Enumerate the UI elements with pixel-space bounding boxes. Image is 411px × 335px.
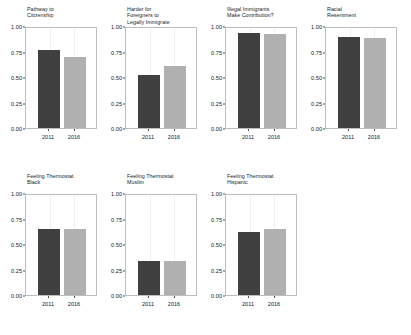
x-axis-tick-mark (374, 129, 375, 131)
plot-box (25, 27, 97, 129)
x-axis-tick-label: 2011 (142, 134, 154, 140)
bar-2016 (64, 229, 86, 295)
plot-area: 0.000.250.500.751.0020112016 (200, 194, 300, 307)
x-axis: 20112016 (125, 296, 197, 312)
bar-group (26, 28, 96, 128)
panel-title: Harder for Foreigners to Legally Immigra… (127, 6, 199, 25)
y-axis-tick-label: 0.25 (11, 268, 22, 274)
x-axis-tick-label: 2016 (368, 134, 380, 140)
x-axis: 20112016 (25, 129, 97, 145)
bar-2016 (164, 261, 186, 295)
y-axis-tick-label: 0.50 (111, 75, 122, 81)
panel-title: Racial Resentment (327, 6, 399, 19)
x-axis: 20112016 (225, 296, 297, 312)
small-multiples-bar-chart-grid: Pathway to Citizenship0.000.250.500.751.… (0, 0, 411, 335)
x-axis-tick-mark (348, 129, 349, 131)
chart-panel: Pathway to Citizenship0.000.250.500.751.… (0, 0, 100, 167)
y-axis-tick-label: 0.50 (211, 242, 222, 248)
bar-group (126, 195, 196, 295)
y-axis-tick-label: 0.00 (111, 126, 122, 132)
y-axis-tick-label: 0.00 (11, 126, 22, 132)
plot-area: 0.000.250.500.751.0020112016 (100, 27, 200, 140)
plot-area: 0.000.250.500.751.0020112016 (200, 27, 300, 140)
y-axis-tick-label: 1.00 (111, 191, 122, 197)
panel-title: Illegal Immigrants Make Contribution? (227, 6, 299, 19)
bar-group (226, 28, 296, 128)
x-axis-tick-mark (274, 129, 275, 131)
chart-panel: Racial Resentment0.000.250.500.751.00201… (300, 0, 400, 167)
y-axis-tick-label: 0.50 (311, 75, 322, 81)
y-axis-tick-label: 1.00 (11, 24, 22, 30)
chart-panel: Illegal Immigrants Make Contribution?0.0… (200, 0, 300, 167)
y-axis-tick-label: 0.00 (311, 126, 322, 132)
y-axis-tick-label: 0.50 (11, 75, 22, 81)
plot-area: 0.000.250.500.751.0020112016 (100, 194, 200, 307)
x-axis-tick-mark (248, 296, 249, 298)
plot-box (125, 27, 197, 129)
y-axis-tick-label: 0.25 (11, 101, 22, 107)
x-axis-tick-label: 2011 (142, 301, 154, 307)
y-axis-tick-label: 0.75 (111, 50, 122, 56)
panel-row: Pathway to Citizenship0.000.250.500.751.… (0, 0, 411, 167)
y-axis-tick-label: 0.00 (111, 293, 122, 299)
panel-title: Pathway to Citizenship (27, 6, 99, 19)
x-axis-tick-label: 2011 (242, 134, 254, 140)
bar-2011 (38, 229, 60, 295)
y-axis-tick-label: 1.00 (211, 24, 222, 30)
x-axis-tick-mark (74, 296, 75, 298)
bar-2016 (264, 229, 286, 295)
y-axis-tick-label: 0.00 (211, 126, 222, 132)
plot-box (225, 194, 297, 296)
x-axis-tick-label: 2016 (168, 134, 180, 140)
bar-group (26, 195, 96, 295)
bar-2016 (264, 34, 286, 128)
plot-box (225, 27, 297, 129)
y-axis-tick-label: 1.00 (311, 24, 322, 30)
y-axis-tick-label: 0.25 (211, 101, 222, 107)
y-axis-tick-label: 0.25 (211, 268, 222, 274)
x-axis: 20112016 (325, 129, 397, 145)
x-axis-tick-label: 2011 (42, 301, 54, 307)
y-axis-tick-label: 0.25 (311, 101, 322, 107)
y-axis-tick-label: 0.75 (111, 217, 122, 223)
y-axis-tick-label: 0.25 (111, 101, 122, 107)
y-axis-tick-label: 0.50 (111, 242, 122, 248)
x-axis-tick-label: 2016 (68, 134, 80, 140)
chart-panel: Feeling Thermostat Hispanic0.000.250.500… (200, 167, 300, 334)
chart-panel: Feeling Thermostat Muslim0.000.250.500.7… (100, 167, 200, 334)
bar-2011 (38, 50, 60, 128)
y-axis-tick-label: 0.75 (11, 50, 22, 56)
plot-area: 0.000.250.500.751.0020112016 (0, 27, 100, 140)
x-axis-tick-label: 2011 (42, 134, 54, 140)
y-axis: 0.000.250.500.751.00 (300, 27, 325, 129)
bar-2011 (138, 261, 160, 295)
chart-panel: Feeling Thermostat Black0.000.250.500.75… (0, 167, 100, 334)
x-axis-tick-mark (74, 129, 75, 131)
chart-panel: Harder for Foreigners to Legally Immigra… (100, 0, 200, 167)
x-axis-tick-label: 2016 (268, 301, 280, 307)
x-axis-tick-mark (174, 129, 175, 131)
panel-row: Feeling Thermostat Black0.000.250.500.75… (0, 167, 411, 334)
x-axis-tick-label: 2016 (68, 301, 80, 307)
x-axis-tick-mark (148, 296, 149, 298)
panel-title: Feeling Thermostat Hispanic (227, 173, 299, 186)
panel-title: Feeling Thermostat Black (27, 173, 99, 186)
plot-box (25, 194, 97, 296)
bar-2016 (64, 57, 86, 128)
y-axis-tick-label: 0.75 (211, 217, 222, 223)
bar-2011 (238, 232, 260, 295)
y-axis: 0.000.250.500.751.00 (0, 27, 25, 129)
y-axis-tick-label: 0.25 (111, 268, 122, 274)
x-axis-tick-label: 2011 (342, 134, 354, 140)
y-axis-tick-label: 0.75 (211, 50, 222, 56)
y-axis-tick-label: 1.00 (11, 191, 22, 197)
x-axis-tick-mark (148, 129, 149, 131)
x-axis-tick-mark (48, 296, 49, 298)
y-axis-tick-label: 0.75 (11, 217, 22, 223)
x-axis-tick-label: 2011 (242, 301, 254, 307)
x-axis-tick-mark (274, 296, 275, 298)
plot-box (325, 27, 397, 129)
plot-area: 0.000.250.500.751.0020112016 (300, 27, 400, 140)
y-axis-tick-label: 0.00 (211, 293, 222, 299)
x-axis: 20112016 (125, 129, 197, 145)
